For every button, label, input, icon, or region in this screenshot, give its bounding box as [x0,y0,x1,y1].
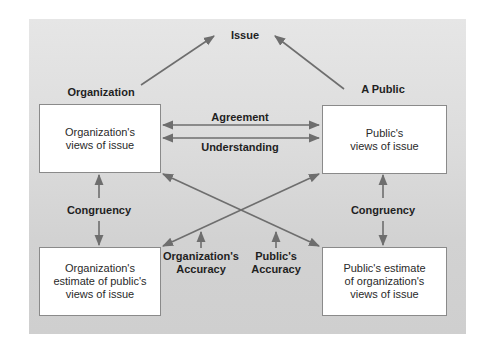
public-views-text: Public's views of issue [350,127,418,153]
congruency-right-label: Congruency [343,204,423,217]
coorientation-diagram: Issue Organization A Public Organization… [0,0,486,353]
congruency-left-label: Congruency [59,204,139,217]
org-estimate-box: Organization's estimate of public's view… [39,247,161,316]
org-estimate-text: Organization's estimate of public's view… [53,262,146,301]
a-public-label: A Public [348,83,418,96]
public-estimate-box: Public's estimate of organization's view… [322,247,447,316]
org-views-text: Organization's views of issue [65,126,135,152]
public-to-issue-arrow [275,36,344,89]
public-accuracy-label: Public's Accuracy [246,250,306,276]
org-accuracy-label: Organization's Accuracy [160,250,242,276]
issue-label: Issue [222,29,268,42]
understanding-label: Understanding [190,141,290,154]
org-to-issue-arrow [141,36,214,85]
public-estimate-text: Public's estimate of organization's view… [343,262,425,301]
public-views-box: Public's views of issue [322,105,447,174]
agreement-label: Agreement [200,111,280,124]
org-views-box: Organization's views of issue [39,104,161,173]
organization-label: Organization [55,86,147,99]
